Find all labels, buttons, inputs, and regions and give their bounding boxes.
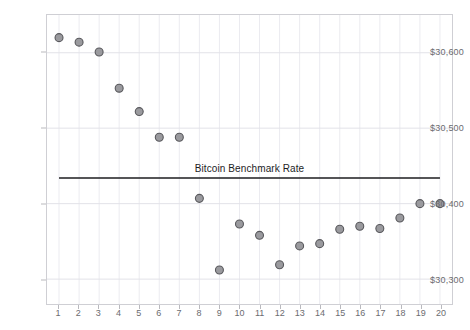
x-axis-tick-label: 9: [217, 308, 222, 318]
y-axis-tick-mark: [41, 127, 46, 128]
data-point-marker: [336, 225, 344, 233]
x-axis-tick-mark: [78, 305, 79, 309]
data-point-marker: [195, 194, 203, 202]
x-axis-tick-label: 17: [375, 308, 385, 318]
y-axis-tick-label: $30,400: [424, 199, 470, 209]
y-axis-tick-mark: [41, 203, 46, 204]
x-axis-tick-mark: [401, 305, 402, 309]
x-axis-tick-mark: [58, 305, 59, 309]
x-axis-tick-mark: [340, 305, 341, 309]
y-axis-tick-label: $30,500: [424, 123, 470, 133]
x-axis-tick-label: 16: [355, 308, 365, 318]
x-axis-tick-label: 18: [396, 308, 406, 318]
data-point-marker: [296, 242, 304, 250]
data-point-marker: [376, 225, 384, 233]
x-axis-tick-mark: [421, 305, 422, 309]
x-axis-tick-label: 20: [436, 308, 446, 318]
data-point-marker: [215, 266, 223, 274]
y-axis-tick-mark: [41, 279, 46, 280]
x-axis-tick-label: 12: [275, 308, 285, 318]
x-axis-tick-label: 3: [96, 308, 101, 318]
x-axis-tick-mark: [179, 305, 180, 309]
x-axis-tick-mark: [360, 305, 361, 309]
x-axis-tick-mark: [300, 305, 301, 309]
data-point-marker: [115, 84, 123, 92]
x-axis-tick-label: 13: [295, 308, 305, 318]
scatter-chart: $30,300$30,400$30,500$30,600 12345678910…: [0, 0, 470, 330]
x-axis-tick-label: 2: [76, 308, 81, 318]
x-axis-tick-mark: [219, 305, 220, 309]
x-axis-tick-mark: [239, 305, 240, 309]
x-axis-tick-label: 4: [116, 308, 121, 318]
data-point-marker: [175, 133, 183, 141]
x-axis-tick-mark: [139, 305, 140, 309]
x-axis-tick-label: 5: [136, 308, 141, 318]
x-axis-tick-mark: [98, 305, 99, 309]
data-markers: [47, 15, 452, 304]
x-axis-tick-mark: [199, 305, 200, 309]
y-axis-tick-mark: [41, 51, 46, 52]
benchmark-rate-label: Bitcoin Benchmark Rate: [195, 163, 304, 174]
data-point-marker: [235, 220, 243, 228]
data-point-marker: [135, 108, 143, 116]
x-axis-tick-mark: [280, 305, 281, 309]
data-point-marker: [416, 200, 424, 208]
x-axis-tick-mark: [119, 305, 120, 309]
data-point-marker: [316, 240, 324, 248]
data-point-marker: [55, 34, 63, 42]
x-axis-tick-label: 6: [156, 308, 161, 318]
x-axis-tick-label: 8: [197, 308, 202, 318]
x-axis-tick-label: 14: [315, 308, 325, 318]
x-axis-tick-mark: [380, 305, 381, 309]
plot-area: [46, 14, 453, 305]
data-point-marker: [155, 133, 163, 141]
y-axis-tick-label: $30,300: [424, 275, 470, 285]
x-axis-tick-label: 11: [255, 308, 264, 318]
y-axis-tick-label: $30,600: [424, 47, 470, 57]
x-axis-tick-label: 10: [234, 308, 244, 318]
data-point-marker: [75, 38, 83, 46]
x-axis-tick-label: 15: [335, 308, 345, 318]
x-axis-tick-mark: [260, 305, 261, 309]
data-point-marker: [256, 231, 264, 239]
data-point-marker: [396, 214, 404, 222]
x-axis-tick-label: 1: [56, 308, 61, 318]
data-point-marker: [356, 222, 364, 230]
x-axis-tick-label: 7: [176, 308, 181, 318]
x-axis-tick-mark: [320, 305, 321, 309]
x-axis-tick-mark: [159, 305, 160, 309]
x-axis-tick-mark: [441, 305, 442, 309]
data-point-marker: [95, 48, 103, 56]
x-axis-tick-label: 19: [416, 308, 426, 318]
data-point-marker: [276, 261, 284, 269]
